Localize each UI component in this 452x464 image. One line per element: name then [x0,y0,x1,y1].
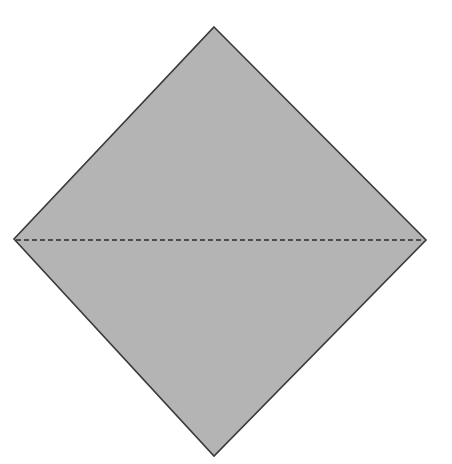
fold-diagram [0,0,452,464]
diamond-shape [14,27,426,456]
